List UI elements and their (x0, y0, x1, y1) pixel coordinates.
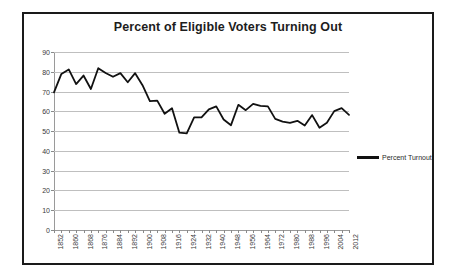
x-tick-label-2012: 2012 (352, 234, 359, 250)
y-tick-label-70: 70 (42, 88, 50, 95)
x-tick-label-1916: 1916 (175, 234, 182, 250)
y-tick-label-60: 60 (42, 108, 50, 115)
x-tick-label-1876: 1876 (101, 234, 108, 250)
x-tick-mark-1968 (268, 230, 269, 233)
x-tick-mark-1940 (216, 230, 217, 233)
y-tick-label-30: 30 (42, 167, 50, 174)
x-tick-mark-1972 (275, 230, 276, 233)
x-tick-mark-1872 (91, 230, 92, 233)
x-tick-mark-2000 (327, 230, 328, 233)
x-tick-label-1972: 1972 (278, 234, 285, 250)
x-tick-label-1868: 1868 (87, 234, 94, 250)
x-tick-mark-2008 (342, 230, 343, 233)
x-tick-label-1860: 1860 (72, 234, 79, 250)
x-tick-mark-1944 (224, 230, 225, 233)
x-tick-mark-1928 (194, 230, 195, 233)
x-tick-mark-1880 (106, 230, 107, 233)
x-tick-label-1932: 1932 (205, 234, 212, 250)
x-tick-label-1908: 1908 (160, 234, 167, 250)
x-tick-mark-1992 (312, 230, 313, 233)
x-tick-mark-1916 (172, 230, 173, 233)
x-tick-mark-1904 (150, 230, 151, 233)
x-tick-mark-1892 (128, 230, 129, 233)
chart-legend: Percent Turnout (357, 154, 432, 161)
x-tick-mark-1932 (202, 230, 203, 233)
legend-swatch-percent-turnout (357, 156, 379, 159)
plot-area: 0102030405060708090 18521860186818761884… (54, 52, 349, 230)
x-tick-mark-1896 (135, 230, 136, 233)
x-tick-label-1900: 1900 (146, 234, 153, 250)
x-tick-mark-1888 (120, 230, 121, 233)
chart-container: Percent of Eligible Voters Turning Out 0… (22, 12, 434, 265)
x-tick-label-1956: 1956 (249, 234, 256, 250)
x-tick-mark-1948 (231, 230, 232, 233)
y-tick-label-10: 10 (42, 207, 50, 214)
x-tick-label-1884: 1884 (116, 234, 123, 250)
x-tick-label-1980: 1980 (293, 234, 300, 250)
y-tick-label-20: 20 (42, 187, 50, 194)
x-tick-mark-1952 (238, 230, 239, 233)
x-tick-label-1996: 1996 (323, 234, 330, 250)
legend-label-percent-turnout: Percent Turnout (382, 154, 432, 161)
x-tick-mark-1964 (261, 230, 262, 233)
x-tick-mark-1996 (320, 230, 321, 233)
x-tick-label-1948: 1948 (234, 234, 241, 250)
x-tick-mark-2012 (349, 230, 350, 233)
x-tick-mark-1924 (187, 230, 188, 233)
x-tick-label-1940: 1940 (219, 234, 226, 250)
x-tick-label-1924: 1924 (190, 234, 197, 250)
x-tick-mark-1856 (61, 230, 62, 233)
plot-wrapper: 0102030405060708090 18521860186818761884… (24, 14, 432, 263)
x-tick-mark-1976 (283, 230, 284, 233)
y-tick-label-0: 0 (46, 227, 50, 234)
x-tick-mark-1900 (143, 230, 144, 233)
x-tick-mark-1876 (98, 230, 99, 233)
x-tick-mark-1960 (253, 230, 254, 233)
x-tick-mark-1920 (179, 230, 180, 233)
x-tick-mark-1912 (165, 230, 166, 233)
x-tick-mark-1984 (297, 230, 298, 233)
x-tick-label-1964: 1964 (264, 234, 271, 250)
x-tick-mark-2004 (334, 230, 335, 233)
x-tick-label-2004: 2004 (337, 234, 344, 250)
x-tick-label-1892: 1892 (131, 234, 138, 250)
y-tick-label-80: 80 (42, 68, 50, 75)
x-tick-mark-1852 (54, 230, 55, 233)
x-tick-mark-1884 (113, 230, 114, 233)
x-tick-label-1852: 1852 (57, 234, 64, 250)
x-tick-label-1988: 1988 (308, 234, 315, 250)
x-tick-mark-1988 (305, 230, 306, 233)
x-tick-mark-1868 (84, 230, 85, 233)
x-tick-mark-1860 (69, 230, 70, 233)
y-tick-label-50: 50 (42, 128, 50, 135)
x-tick-mark-1956 (246, 230, 247, 233)
x-tick-mark-1864 (76, 230, 77, 233)
x-tick-mark-1936 (209, 230, 210, 233)
series-line-percent-turnout (54, 52, 349, 230)
y-tick-label-40: 40 (42, 147, 50, 154)
x-tick-mark-1980 (290, 230, 291, 233)
x-tick-mark-1908 (157, 230, 158, 233)
y-tick-label-90: 90 (42, 49, 50, 56)
